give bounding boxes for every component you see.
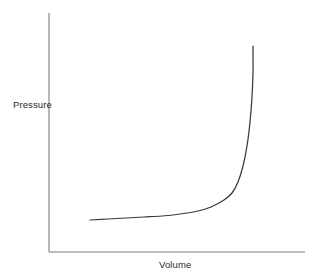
y-axis-label: Pressure (13, 99, 52, 110)
chart-figure: Pressure Volume (0, 0, 322, 280)
pressure-volume-plot (0, 0, 322, 280)
pressure-volume-curve (90, 46, 253, 220)
x-axis-label: Volume (159, 259, 191, 270)
